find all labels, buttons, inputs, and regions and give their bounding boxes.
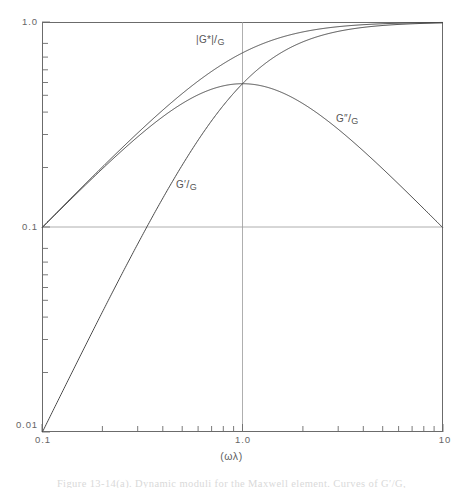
storage-modulus-denominator: G: [190, 182, 197, 192]
plot-frame: [42, 22, 443, 432]
loss-modulus-numerator: G″: [336, 113, 348, 124]
y-tick-label-0.01: 0.01: [2, 419, 38, 430]
complex-modulus-numerator: |G*|: [196, 34, 214, 45]
loss-modulus-label: G″/G: [336, 112, 359, 124]
y-tick-label-0.1: 0.1: [8, 221, 38, 232]
loss-modulus-denominator: G: [351, 116, 358, 126]
x-tick-label-10: 10: [433, 434, 457, 445]
x-tick-label-0.1: 0.1: [31, 434, 55, 445]
complex-modulus-label: |G*|/G: [196, 33, 225, 45]
x-axis-title: (ωλ): [0, 450, 463, 462]
storage-modulus-label: G′/G: [176, 178, 197, 190]
x-tick-label-1.0: 1.0: [231, 434, 255, 445]
figure-container: 1.0 0.1 0.01 0.1 1.0 10 |G*|/G G″/G G′/G…: [0, 0, 463, 488]
figure-caption: Figure 13-14(a). Dynamic moduli for the …: [0, 478, 463, 488]
complex-modulus-denominator: G: [217, 37, 224, 47]
y-tick-label-1.0: 1.0: [8, 16, 38, 27]
storage-modulus-numerator: G′: [176, 179, 186, 190]
